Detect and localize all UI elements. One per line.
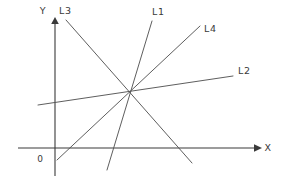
diagram-canvas: X Y 0 L1 L2 L3 L4	[0, 0, 283, 181]
line-l3	[66, 20, 192, 163]
y-axis-arrow-icon	[51, 17, 59, 24]
line-label-l3: L3	[59, 5, 72, 16]
line-label-l2: L2	[238, 65, 251, 76]
y-axis	[51, 17, 59, 176]
x-axis-arrow-icon	[254, 144, 262, 152]
coordinate-plane-diagram: X Y 0 L1 L2 L3 L4	[0, 0, 283, 181]
origin-label: 0	[37, 154, 43, 164]
line-label-l4: L4	[204, 23, 217, 34]
y-axis-label: Y	[39, 5, 46, 16]
line-l2	[38, 76, 233, 105]
line-label-l1: L1	[152, 6, 165, 17]
line-l4	[57, 26, 200, 160]
x-axis-label: X	[264, 142, 271, 153]
